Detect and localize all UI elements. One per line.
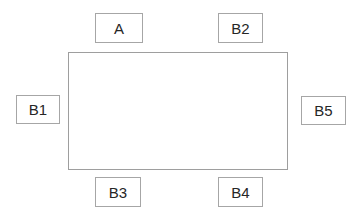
node-box-b1[interactable]: B1 bbox=[16, 95, 60, 124]
node-box-a[interactable]: A bbox=[95, 13, 143, 43]
node-box-b3[interactable]: B3 bbox=[95, 177, 141, 207]
diagram-canvas: A B2 B1 B5 B3 B4 bbox=[0, 0, 357, 220]
node-label-b3: B3 bbox=[109, 185, 128, 200]
node-box-b4[interactable]: B4 bbox=[218, 177, 263, 207]
node-label-a: A bbox=[114, 21, 124, 36]
node-label-b5: B5 bbox=[314, 103, 333, 118]
node-label-b4: B4 bbox=[231, 185, 250, 200]
node-label-b2: B2 bbox=[231, 21, 250, 36]
main-rectangle bbox=[68, 52, 288, 170]
node-label-b1: B1 bbox=[29, 102, 48, 117]
node-box-b2[interactable]: B2 bbox=[218, 13, 263, 43]
node-box-b5[interactable]: B5 bbox=[301, 96, 346, 125]
